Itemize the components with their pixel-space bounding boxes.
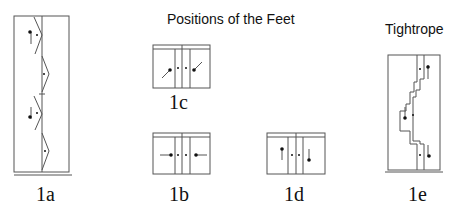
tightrope-left-path: [400, 55, 417, 170]
foot-triangle-1: [34, 17, 42, 54]
feet-positions-diagram: Positions of the Feet Tightrope 1a 1b 1c…: [0, 0, 452, 211]
figure-label-1b: 1b: [169, 183, 189, 206]
figure-1d-drawing: [267, 133, 325, 174]
tightrope-title: Tightrope: [385, 21, 444, 37]
figure-label-1a: 1a: [36, 183, 55, 206]
figure-label-1d: 1d: [284, 183, 304, 206]
figure-1a-drawing: [14, 16, 72, 175]
figure-label-1c: 1c: [169, 91, 188, 114]
tightrope-right-path: [413, 55, 424, 170]
figure-1b-drawing: [153, 133, 210, 174]
figure-label-1e: 1e: [408, 183, 427, 206]
figure-1c-drawing: [153, 45, 210, 88]
figure-1e-drawing: [385, 55, 443, 172]
positions-of-the-feet-title: Positions of the Feet: [167, 11, 295, 27]
